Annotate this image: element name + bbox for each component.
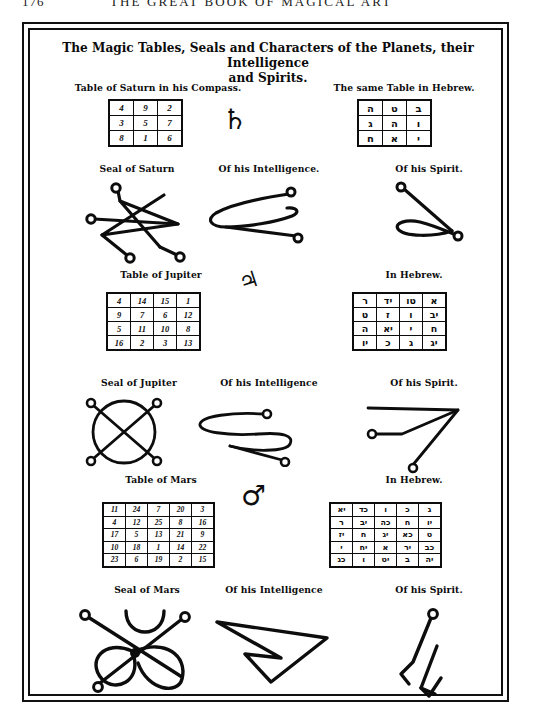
mars-planet-symbol: ♂ [241, 482, 266, 510]
magic-cell: 2 [158, 100, 183, 116]
jupiter-planet-symbol: ♃ [236, 267, 262, 294]
sigil-seal-of-jupiter [72, 392, 177, 472]
magic-cell-hebrew: יז [330, 529, 353, 542]
magic-cell-hebrew: ב [397, 554, 419, 567]
table-row: י יח א יר כב [330, 541, 441, 554]
magic-cell: 10 [103, 541, 126, 554]
magic-cell-hebrew: כ [397, 503, 419, 516]
magic-cell-hebrew: יב [423, 308, 447, 322]
table-row: יו כ ג יג [353, 336, 446, 351]
magic-cell-hebrew: י [407, 131, 432, 147]
caption-jupiter-spirit: Of his Spirit. [359, 377, 489, 388]
magic-cell-hebrew: ט [383, 100, 407, 116]
magic-cell-hebrew: ה [358, 100, 383, 116]
sigil-mars-spirit [379, 602, 489, 702]
magic-cell-hebrew: יו [419, 516, 442, 529]
magic-cell-hebrew: ט [419, 529, 442, 542]
magic-cell: 24 [126, 503, 148, 516]
magic-cell: 9 [134, 100, 158, 116]
magic-cell-hebrew: יב [353, 516, 375, 529]
caption-table-of-jupiter: Table of Jupiter [76, 269, 246, 280]
sigil-saturn-intelligence [192, 182, 317, 252]
table-row: 4 12 25 8 16 [103, 516, 214, 529]
table-row: ג ה ו [358, 116, 431, 131]
magic-cell-hebrew: ב [407, 100, 432, 116]
magic-cell-hebrew: כה [375, 516, 397, 529]
magic-cell-hebrew: יג [375, 529, 397, 542]
magic-square-saturn: 4 9 2 3 5 7 8 1 6 [108, 99, 183, 147]
magic-cell: 4 [103, 516, 126, 529]
magic-cell: 25 [148, 516, 170, 529]
table-row: 10 18 1 14 22 [103, 541, 214, 554]
table-row: ח א י [358, 131, 431, 147]
magic-square-jupiter: 4 14 15 1 9 7 6 12 5 11 10 8 [106, 292, 201, 351]
magic-cell: 7 [158, 116, 183, 131]
magic-cell-hebrew: כד [353, 503, 375, 516]
magic-cell-hebrew: ה [353, 322, 377, 336]
magic-cell-hebrew: י [400, 322, 423, 336]
magic-cell: 20 [170, 503, 192, 516]
magic-cell: 8 [109, 131, 134, 147]
magic-cell: 6 [126, 554, 148, 567]
magic-cell: 9 [107, 308, 131, 322]
magic-cell: 3 [154, 336, 177, 351]
caption-mars-spirit: Of his Spirit. [364, 584, 494, 595]
caption-saturn-hebrew-table: The same Table in Hebrew. [309, 82, 499, 93]
magic-cell-hebrew: א [383, 131, 407, 147]
magic-cell-hebrew: ר [330, 516, 353, 529]
table-row: יא כד ו כ ג [330, 503, 441, 516]
magic-cell-hebrew: ג [400, 336, 423, 351]
magic-cell: 11 [131, 322, 154, 336]
magic-cell: 12 [126, 516, 148, 529]
table-row: ה יא י ח [353, 322, 446, 336]
table-row: 8 1 6 [109, 131, 182, 147]
magic-cell-hebrew: ה [383, 116, 407, 131]
sigil-saturn-spirit [364, 179, 484, 254]
magic-square-saturn-hebrew: ה ט ב ג ה ו ח א י [357, 99, 432, 147]
magic-cell: 3 [192, 503, 215, 516]
sigil-jupiter-intelligence [192, 402, 322, 467]
table-row: יז ח יג כא ט [330, 529, 441, 542]
caption-table-of-mars: Table of Mars [76, 474, 246, 485]
caption-seal-of-saturn: Seal of Saturn [62, 163, 212, 174]
magic-cell: 21 [170, 529, 192, 542]
magic-cell-hebrew: יט [375, 554, 397, 567]
magic-cell: 17 [103, 529, 126, 542]
magic-cell: 1 [134, 131, 158, 147]
magic-cell: 4 [107, 293, 131, 308]
table-row: 5 11 10 8 [107, 322, 200, 336]
magic-cell-hebrew: ז [377, 308, 400, 322]
magic-cell-hebrew: יה [419, 554, 442, 567]
table-row: 11 24 7 20 3 [103, 503, 214, 516]
sigil-seal-of-saturn [60, 179, 205, 264]
magic-cell-hebrew: יח [353, 541, 375, 554]
magic-cell: 1 [148, 541, 170, 554]
magic-cell: 15 [154, 293, 177, 308]
magic-cell: 6 [154, 308, 177, 322]
magic-cell-hebrew: יא [377, 322, 400, 336]
sigil-seal-of-mars [64, 599, 209, 699]
sigil-jupiter-spirit [354, 394, 479, 474]
magic-cell-hebrew: א [375, 541, 397, 554]
magic-cell: 5 [134, 116, 158, 131]
running-head-title: THE GREAT BOOK OF MAGICAL ART [110, 0, 392, 10]
magic-cell: 14 [170, 541, 192, 554]
table-row: כג ו יט ב יה [330, 554, 441, 567]
table-row: 17 5 13 21 9 [103, 529, 214, 542]
plate-title: The Magic Tables, Seals and Characters o… [55, 40, 482, 85]
magic-cell: 9 [192, 529, 215, 542]
table-row: ט ז ו יב [353, 308, 446, 322]
magic-cell-hebrew: ג [358, 116, 383, 131]
magic-cell: 13 [148, 529, 170, 542]
magic-cell-hebrew: טו [400, 293, 423, 308]
magic-square-mars: 11 24 7 20 3 4 12 25 8 16 17 5 13 [102, 502, 215, 568]
magic-cell: 2 [131, 336, 154, 351]
magic-cell: 23 [103, 554, 126, 567]
magic-cell: 22 [192, 541, 215, 554]
caption-saturn-intelligence: Of his Intelligence. [199, 163, 339, 174]
caption-jupiter-intelligence: Of his Intelligence [199, 377, 339, 388]
caption-jupiter-hebrew-table: In Hebrew. [339, 269, 489, 280]
magic-cell-hebrew: כ [377, 336, 400, 351]
magic-cell-hebrew: יו [353, 336, 377, 351]
plate-border-outer: The Magic Tables, Seals and Characters o… [22, 22, 509, 702]
